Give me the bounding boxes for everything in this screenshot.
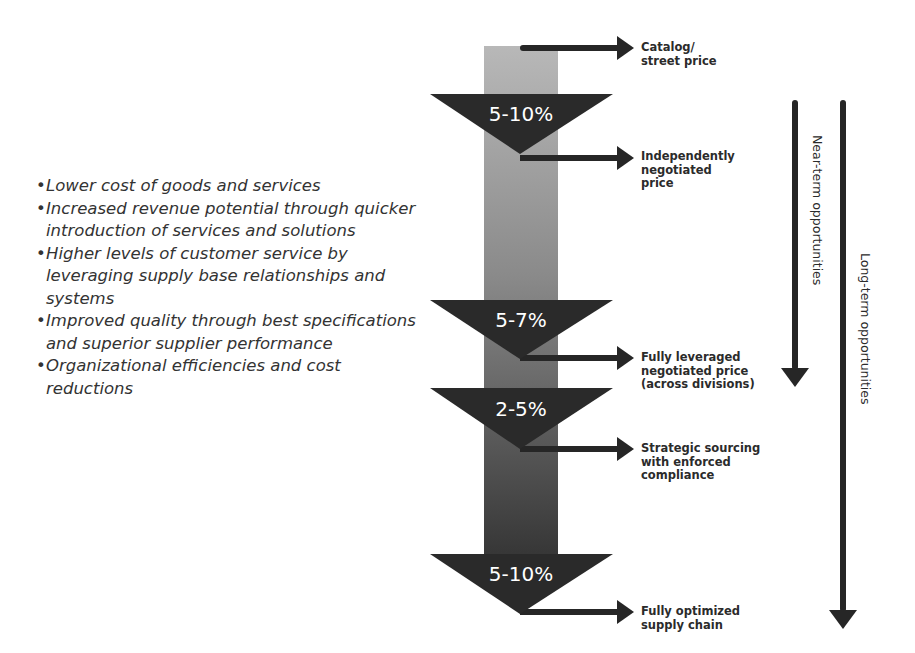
price-reduction-diagram: 5-10% 5-7% 2-5% 5-10% <box>0 0 915 653</box>
near-term-arrow <box>781 100 809 387</box>
price-level-label: Fully leveraged negotiated price (across… <box>641 351 755 392</box>
price-level-label: Independently negotiated price <box>641 150 735 191</box>
price-level-arrow <box>520 600 634 624</box>
price-level-label: Catalog/ street price <box>641 41 717 68</box>
svg-text:5-10%: 5-10% <box>489 102 553 126</box>
price-level-label: Strategic sourcing with enforced complia… <box>641 442 760 483</box>
near-term-label: Near-term opportunities <box>810 135 825 285</box>
svg-text:5-7%: 5-7% <box>495 308 547 332</box>
svg-text:2-5%: 2-5% <box>495 397 547 421</box>
price-level-label: Fully optimized supply chain <box>641 605 740 632</box>
savings-triangle: 5-10% <box>430 94 613 154</box>
svg-text:5-10%: 5-10% <box>489 562 553 586</box>
long-term-label: Long-term opportunities <box>858 253 873 405</box>
savings-triangle: 5-10% <box>430 554 613 614</box>
savings-triangle: 2-5% <box>430 388 613 449</box>
savings-triangle: 5-7% <box>430 300 613 359</box>
long-term-arrow <box>829 100 857 629</box>
